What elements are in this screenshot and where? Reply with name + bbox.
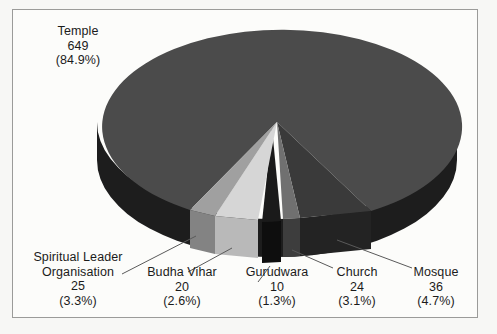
slice-label-spiritual-leader-organisation: Spiritual Leader Organisation 25 (3.3%) [14,250,142,308]
slice-label-gurudwara-percent: (1.3%) [228,294,326,309]
slice-label-budha-percent: (2.6%) [130,294,234,309]
slice-label-church-percent: (3.1%) [324,294,390,309]
slice-label-mosque-value: 36 [398,280,474,295]
slice-label-gurudwara-value: 10 [228,280,326,295]
slice-label-temple: Temple 649 (84.9%) [30,24,126,68]
slice-label-spiritual-value: 25 [14,279,142,294]
slice-label-church-name: Church [324,265,390,280]
slice-label-church: Church 24 (3.1%) [324,265,390,309]
slice-label-mosque-name: Mosque [398,265,474,280]
pie-chart-figure: Temple 649 (84.9%) Spiritual Leader Orga… [0,0,497,334]
slice-side-church [283,218,300,257]
slice-label-gurudwara-name: Gurudwara [228,265,326,280]
slice-side-budha [215,216,258,258]
slice-label-spiritual-name: Spiritual Leader [14,250,142,265]
slice-label-spiritual-percent: (3.3%) [14,294,142,309]
leader-line-mosque [337,240,412,268]
slice-label-temple-value: 649 [30,39,126,54]
slice-side-gurudwara [262,221,281,263]
slice-label-church-value: 24 [324,280,390,295]
slice-label-temple-percent: (84.9%) [30,53,126,68]
slice-label-mosque-percent: (4.7%) [398,294,474,309]
slice-side-spiritual [190,210,215,254]
slice-label-budha-value: 20 [130,280,234,295]
slice-label-gurudwara: Gurudwara 10 (1.3%) [228,265,326,309]
slice-label-budha-vihar: Budha Vihar 20 (2.6%) [130,265,234,309]
slice-label-spiritual-name-line2: Organisation [14,265,142,280]
slice-label-temple-name: Temple [30,24,126,39]
slice-label-budha-name: Budha Vihar [130,265,234,280]
slice-label-mosque: Mosque 36 (4.7%) [398,265,474,309]
pie-top-faces [102,30,462,222]
